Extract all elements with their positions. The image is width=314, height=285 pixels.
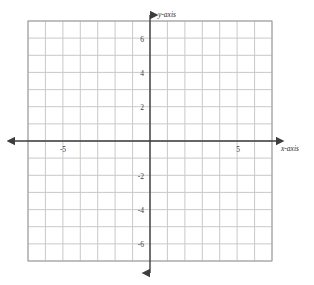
y-tick-label-neg4: -4 xyxy=(138,206,144,215)
coordinate-grid-svg: y-axis x-axis -5 5 6 4 2 -2 -4 -6 xyxy=(0,0,314,285)
x-tick-label-neg5: -5 xyxy=(60,145,66,154)
y-tick-label-pos2: 2 xyxy=(140,103,144,112)
y-tick-label-neg6: -6 xyxy=(138,240,144,249)
y-tick-label-neg2: -2 xyxy=(138,172,144,181)
x-tick-label-pos5: 5 xyxy=(236,145,240,154)
coordinate-plane-figure: y-axis x-axis -5 5 6 4 2 -2 -4 -6 xyxy=(0,0,314,285)
y-tick-label-pos4: 4 xyxy=(140,69,144,78)
x-axis-label: x-axis xyxy=(280,144,299,153)
y-tick-label-pos6: 6 xyxy=(140,35,144,44)
y-axis-label: y-axis xyxy=(157,10,176,19)
